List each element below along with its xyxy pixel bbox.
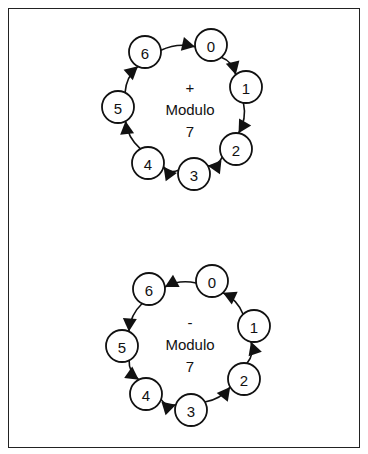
node-label: 4 [144, 156, 152, 173]
subtraction-modulo-7-diagram: 0123456 - Modulo 7 [106, 265, 270, 426]
node-0: 0 [196, 265, 228, 297]
node-label: 1 [242, 80, 250, 97]
node-2: 2 [228, 363, 260, 395]
modulo-label: Modulo [165, 101, 214, 118]
arrowhead-icon [165, 275, 180, 287]
modulo-diagrams-canvas: 0123456 + Modulo 7 0123456 - Modulo 7 [0, 0, 368, 454]
node-label: 5 [114, 100, 122, 117]
addition-modulo-7-diagram: 0123456 + Modulo 7 [102, 29, 262, 190]
arrowhead-icon [239, 118, 252, 133]
node-label: 5 [118, 339, 126, 356]
node-5: 5 [102, 91, 134, 123]
arrowhead-icon [249, 342, 262, 357]
node-label: 2 [232, 142, 240, 159]
node-1: 1 [238, 310, 270, 342]
node-3: 3 [178, 158, 210, 190]
node-4: 4 [130, 378, 162, 410]
node-label: 6 [145, 282, 153, 299]
modulus-label: 7 [186, 358, 194, 375]
modulus-label: 7 [186, 123, 194, 140]
arrowhead-icon [181, 37, 195, 51]
modulo-label: Modulo [165, 336, 214, 353]
node-label: 0 [207, 38, 215, 55]
node-label: 6 [141, 45, 149, 62]
node-5: 5 [106, 330, 138, 362]
node-label: 3 [190, 167, 198, 184]
node-label: 1 [250, 319, 258, 336]
node-0: 0 [195, 29, 227, 61]
node-3: 3 [175, 394, 207, 426]
node-2: 2 [220, 133, 252, 165]
node-4: 4 [132, 147, 164, 179]
node-6: 6 [133, 273, 165, 305]
arrowhead-icon [124, 66, 138, 80]
operator-label: + [186, 79, 195, 96]
node-1: 1 [230, 71, 262, 103]
arrowhead-icon [164, 167, 177, 182]
arrowhead-icon [161, 402, 175, 415]
node-label: 3 [187, 403, 195, 420]
node-6: 6 [129, 36, 161, 68]
node-label: 0 [208, 274, 216, 291]
operator-label: - [188, 314, 193, 331]
node-label: 4 [142, 387, 150, 404]
arrowhead-icon [124, 366, 139, 379]
node-label: 2 [240, 372, 248, 389]
arrowhead-icon [217, 387, 230, 402]
